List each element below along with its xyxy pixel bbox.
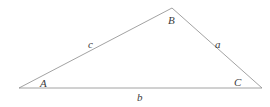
triangle-shape bbox=[0, 0, 270, 107]
side-label-b: b bbox=[137, 92, 143, 103]
triangle-outline bbox=[19, 8, 262, 88]
vertex-label-b: B bbox=[168, 15, 175, 26]
vertex-label-c: C bbox=[234, 77, 241, 88]
vertex-label-a: A bbox=[40, 78, 47, 89]
triangle-diagram: A B C a b c bbox=[0, 0, 270, 107]
side-label-a: a bbox=[215, 39, 221, 50]
side-label-c: c bbox=[88, 39, 93, 50]
